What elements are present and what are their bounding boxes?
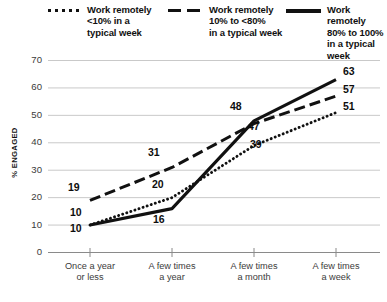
x-axis-tick-label: A few timesa week [293,261,379,283]
y-axis-tick-label: 50 [18,109,42,120]
x-tick-line2: or less [76,272,103,282]
data-label-dashed-1: 31 [148,146,160,158]
data-label-dashed-2: 47 [248,120,260,132]
data-label-dotted-1: 20 [152,178,164,190]
data-label-dotted-0: 10 [70,206,82,218]
data-label-solid-2: 48 [230,100,242,112]
series-line-dashed [90,96,336,200]
data-label-dashed-0: 19 [68,181,80,193]
y-axis-tick-label: 30 [18,164,42,175]
x-tick-line2: a week [321,272,350,282]
data-label-solid-1: 16 [153,213,165,225]
chart-root: Work remotely <10% in a typical week Wor… [0,0,387,302]
y-axis-tick-label: 10 [18,219,42,230]
x-tick-line2: a year [159,272,185,282]
data-label-solid-0: 10 [70,222,82,234]
series-line-dotted [90,113,336,225]
x-axis-tick-label: A few timesa year [129,261,215,283]
x-axis-tick-label: A few timesa month [211,261,297,283]
series-paths [90,80,336,225]
y-axis-tick-label: 20 [18,191,42,202]
y-axis-tick-label: 60 [18,81,42,92]
y-axis-tick-label: 70 [18,54,42,65]
data-label-dotted-2: 39 [250,138,262,150]
x-tick-line1: A few times [313,261,360,271]
x-axis-tick-label: Once a yearor less [47,261,133,283]
y-axis-tick-label: 0 [18,246,42,257]
y-axis-tick-label: 40 [18,136,42,147]
x-tick-line1: A few times [149,261,196,271]
data-label-dashed-3: 57 [343,83,355,95]
plot-area: % ENGAGED 706050403020100 Once a yearor … [0,0,387,302]
data-label-dotted-3: 51 [343,100,355,112]
data-label-solid-3: 63 [343,65,355,77]
x-tick-line2: a month [237,272,270,282]
gridlines [48,61,380,226]
series-line-solid [90,80,336,225]
x-tick-line1: A few times [231,261,278,271]
y-axis-title: % ENGAGED [10,113,19,193]
chart-canvas [0,0,387,302]
x-tick-line1: Once a year [65,261,115,271]
